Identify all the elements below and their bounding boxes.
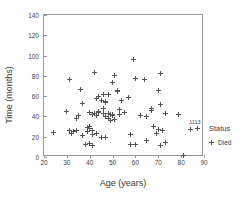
data-point — [138, 113, 143, 118]
data-point — [163, 140, 168, 145]
data-point — [110, 80, 115, 85]
y-axis-tick-label: 60 — [32, 93, 39, 100]
x-axis-title: Age (years) — [43, 178, 203, 188]
legend-entry-label: Died — [218, 139, 231, 146]
plus-marker-icon — [209, 140, 214, 145]
data-point — [176, 112, 181, 117]
data-point — [163, 111, 168, 116]
data-points-layer: 1113 — [44, 15, 202, 155]
data-point — [144, 138, 149, 143]
data-point — [51, 130, 56, 135]
y-axis-tick-label: 80 — [32, 72, 39, 79]
data-point — [142, 77, 147, 82]
point-annotation: 1113 — [189, 119, 200, 125]
data-point — [158, 71, 163, 76]
data-point — [80, 101, 85, 106]
data-point — [115, 89, 120, 94]
y-axis-tick-label: 20 — [32, 133, 39, 140]
y-axis-title: Time (months) — [2, 50, 16, 140]
x-axis-tick-label: 80 — [178, 159, 185, 166]
legend-title: Status — [209, 124, 240, 133]
data-point — [92, 70, 97, 75]
scatter-chart: Time (months) 020406080100120140 2030405… — [0, 0, 240, 198]
x-axis-tick-mark — [44, 155, 45, 158]
data-point — [181, 153, 186, 158]
data-point — [74, 128, 79, 133]
data-point — [78, 87, 83, 92]
x-axis-tick-label: 50 — [109, 159, 116, 166]
data-point — [156, 88, 161, 93]
y-axis-tick-label: 140 — [28, 12, 39, 19]
x-axis-tick-label: 70 — [155, 159, 162, 166]
data-point — [103, 135, 108, 140]
data-point — [112, 73, 117, 78]
y-axis-tick-label: 0 — [35, 154, 39, 161]
x-axis-tick-label: 30 — [63, 159, 70, 166]
y-axis-tick-label: 120 — [28, 32, 39, 39]
y-axis-title-text: Time (months) — [4, 66, 14, 124]
data-point — [144, 114, 149, 119]
data-point — [119, 98, 124, 103]
data-point — [131, 57, 136, 62]
data-point — [90, 143, 95, 148]
x-axis-tick-mark — [158, 155, 159, 158]
data-point — [133, 76, 138, 81]
y-axis-tick-label: 100 — [28, 52, 39, 59]
data-point — [195, 126, 200, 131]
y-axis-tick-label: 40 — [32, 113, 39, 120]
data-point — [128, 132, 133, 137]
data-point — [122, 110, 127, 115]
data-point — [76, 113, 81, 118]
data-point — [103, 99, 108, 104]
x-axis-tick-mark — [135, 155, 136, 158]
data-point — [64, 109, 69, 114]
data-point — [133, 142, 138, 147]
data-point — [126, 95, 131, 100]
x-axis-tick-label: 90 — [200, 159, 207, 166]
x-axis-tick-mark — [67, 155, 68, 158]
data-point — [112, 117, 117, 122]
data-point — [149, 108, 154, 113]
plot-area: 020406080100120140 2030405060708090 1113 — [43, 14, 203, 156]
x-axis-tick-label: 20 — [40, 159, 47, 166]
x-axis-tick-mark — [204, 155, 205, 158]
data-point — [106, 92, 111, 97]
legend: Status Died — [209, 124, 240, 146]
x-axis-tick-mark — [113, 155, 114, 158]
x-axis-tick-label: 40 — [86, 159, 93, 166]
data-point — [188, 127, 193, 132]
data-point — [67, 77, 72, 82]
x-axis-tick-mark — [90, 155, 91, 158]
data-point — [158, 102, 163, 107]
data-point — [160, 128, 165, 133]
x-axis-tick-label: 60 — [132, 159, 139, 166]
legend-entries: Died — [209, 139, 240, 146]
legend-entry[interactable]: Died — [209, 139, 240, 146]
